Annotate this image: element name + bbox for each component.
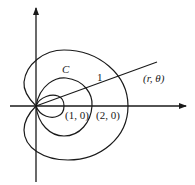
polar-diagram: C 1 (r, θ) (1, 0) (2, 0) [0,0,195,185]
label-ray-length: 1 [97,72,103,83]
label-point-2-0: (2, 0) [96,110,120,121]
label-point-1-0: (1, 0) [65,110,89,121]
label-point-polar: (r, θ) [143,73,164,84]
label-curve-c: C [62,64,69,75]
ray-to-point [36,62,157,106]
diagram-canvas [0,0,195,185]
